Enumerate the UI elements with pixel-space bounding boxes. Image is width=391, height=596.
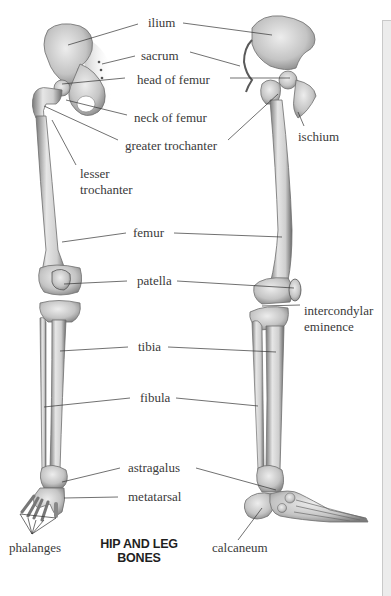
- label-greater-trochanter: greater trochanter: [125, 139, 217, 153]
- label-head-of-femur: head of femur: [137, 73, 210, 87]
- diagram-canvas: ilium sacrum head of femur neck of femur…: [0, 0, 391, 596]
- label-fibula: fibula: [140, 391, 170, 405]
- label-calcaneum: calcaneum: [212, 541, 268, 555]
- label-sacrum: sacrum: [141, 49, 179, 63]
- label-patella: patella: [137, 274, 172, 288]
- label-metatarsal: metatarsal: [128, 490, 181, 504]
- side-panel-edge: [382, 20, 391, 596]
- label-intercondylar-line1: intercondylar: [304, 304, 373, 318]
- label-lesser-trochanter-line1: lesser: [80, 167, 110, 181]
- label-neck-of-femur: neck of femur: [134, 111, 207, 125]
- label-ilium: ilium: [148, 16, 175, 30]
- label-astragalus: astragalus: [128, 461, 180, 475]
- label-tibia: tibia: [138, 340, 161, 354]
- figure-title-line1: HIP AND LEG: [92, 537, 186, 551]
- leg-bones-illustration: [0, 0, 391, 596]
- side-view-skeleton: [244, 16, 368, 522]
- label-ischium: ischium: [298, 130, 339, 144]
- label-phalanges: phalanges: [9, 541, 61, 555]
- figure-title-line2: BONES: [92, 551, 186, 565]
- front-view-skeleton: [22, 24, 112, 520]
- label-femur: femur: [133, 226, 164, 240]
- figure-title: HIP AND LEG BONES: [92, 537, 186, 565]
- label-lesser-trochanter-line2: trochanter: [80, 183, 133, 197]
- label-intercondylar-line2: eminence: [304, 320, 354, 334]
